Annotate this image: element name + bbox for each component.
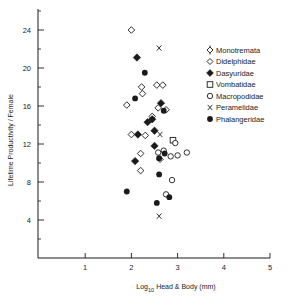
data-point [157,45,162,50]
legend-marker-icon [207,59,213,65]
data-point [151,127,158,134]
y-tick-label: 4 [27,216,31,225]
legend-item-macropodidae: Macropodidae [207,92,263,101]
legend-marker-icon [207,82,213,88]
data-point [166,194,172,200]
data-point [137,150,144,157]
y-tick-label: 12 [23,140,31,149]
legend-label: Didelphidae [216,57,256,66]
legend-label: Phalangeridae [216,115,264,124]
legend-item-monotremata: Monotremata [207,46,261,55]
legend-marker-icon [207,70,214,77]
data-point [137,167,144,174]
data-point [123,102,130,109]
data-point [160,82,167,89]
x-tick-label: 4 [222,263,226,272]
data-point [132,96,138,102]
x-axis-label: Log10Head & Body (mm) [136,283,215,293]
data-point [158,132,163,137]
data-point [156,155,162,161]
legend-marker-icon [207,116,213,122]
series-macropodidae [155,140,189,197]
legend-marker-icon [207,46,213,55]
legend-marker-icon [208,105,213,110]
legend-label: Monotremata [216,46,261,55]
data-point [131,157,138,164]
x-tick-label: 2 [129,263,133,272]
data-point [175,153,180,158]
y-tick-label: 20 [23,64,31,73]
data-point [173,140,178,145]
data-point [139,90,146,97]
x-tick-label: 5 [268,263,272,272]
data-point [156,172,162,178]
data-point [169,177,174,182]
y-tick-label: 24 [23,26,31,35]
legend-label: Vombatidae [216,80,256,89]
y-axis-label: Lifetime Productivity / Female [7,94,15,186]
scatter-chart: 123454812162024 MonotremataDidelphidaeDa… [0,0,291,298]
x-tick-label: 3 [176,263,180,272]
y-tick-label: 8 [27,178,31,187]
legend-marker-icon [207,93,212,98]
legend-item-phalangeridae: Phalangeridae [207,115,264,124]
legend: MonotremataDidelphidaeDasyuridaeVombatid… [207,46,265,124]
data-point [134,131,141,138]
data-point [151,142,158,149]
data-point [142,70,148,76]
data-point [142,132,149,139]
data-point [133,54,140,61]
series-peramelidae [157,45,163,218]
data-point [128,27,135,34]
x-tick-label: 1 [83,263,87,272]
legend-item-didelphidae: Didelphidae [207,57,256,66]
legend-item-peramelidae: Peramelidae [208,103,258,112]
legend-label: Dasyuridae [216,69,254,78]
data-point [168,154,173,159]
data-point [184,150,189,155]
y-tick-label: 16 [23,102,31,111]
data-point [138,84,145,91]
data-point [157,214,162,219]
data-point [124,189,130,195]
legend-item-dasyuridae: Dasyuridae [207,69,254,78]
data-point [154,200,160,206]
legend-item-vombatidae: Vombatidae [207,80,255,89]
data-point [161,108,167,114]
legend-label: Macropodidae [216,92,264,101]
data-point [155,150,160,155]
data-point [128,131,135,138]
data-point [162,151,168,157]
data-points [123,27,189,219]
legend-label: Peramelidae [216,103,258,112]
